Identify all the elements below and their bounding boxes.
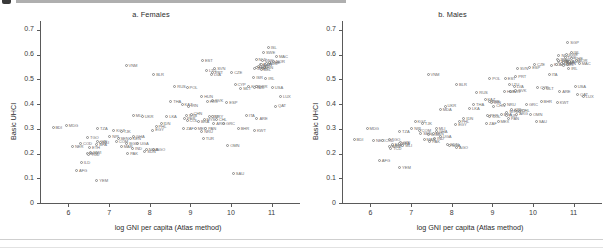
scatter-point <box>423 138 426 141</box>
scatter-point <box>255 66 258 69</box>
scatter-point <box>488 77 491 80</box>
scatter-point <box>165 115 168 118</box>
scatter-point <box>203 118 206 121</box>
scatter-point-label: AUS <box>269 61 277 66</box>
scatter-point <box>232 172 235 175</box>
scatter-point <box>439 108 442 111</box>
scatter-point-label: ITA <box>249 113 255 118</box>
y-tick <box>37 203 40 204</box>
y-tick <box>37 55 40 56</box>
scatter-point-label: CHN <box>194 111 203 116</box>
scatter-point <box>576 93 579 96</box>
x-tick-label: 11 <box>563 209 585 216</box>
scatter-point-label: SWE <box>266 50 275 55</box>
scatter-point-label: AFG <box>79 168 87 173</box>
scatter-point-label: IRL <box>268 76 274 81</box>
scatter-point-label: SVN <box>520 66 528 71</box>
y-tick-label: 0.6 <box>314 50 336 57</box>
x-tick-label: 7 <box>400 209 422 216</box>
scatter-point-label: OMN <box>533 112 542 117</box>
scatter-point-label: IDN <box>466 116 473 121</box>
scatter-point-label: TCD <box>91 152 99 157</box>
scatter-point-label: ISL <box>574 50 580 55</box>
scatter-point <box>540 100 543 103</box>
scatter-point-label: BHR <box>544 99 553 104</box>
scatter-point-label: SRB <box>491 99 499 104</box>
scatter-point <box>353 138 356 141</box>
scatter-point-label: UGA <box>443 134 452 139</box>
scatter-point <box>205 69 208 72</box>
scatter-point <box>508 83 511 86</box>
scatter-point <box>226 144 229 147</box>
scatter-point-label: CAN <box>566 60 575 65</box>
scatter-point-label: PER <box>490 113 498 118</box>
scatter-point-label: ZAF <box>186 126 194 131</box>
scatter-point-label: ARG <box>216 121 225 126</box>
header-text-remnant <box>16 0 346 3</box>
scatter-point-label: SAU <box>539 119 547 124</box>
cropped-header-strip <box>0 0 603 7</box>
scatter-point-label: QAT <box>278 103 286 108</box>
x-tick-label: 10 <box>220 209 242 216</box>
panel-males: b. Males 0.70.60.50.40.30.20.1067891011l… <box>302 7 603 232</box>
y-tick <box>339 178 342 179</box>
x-tick <box>533 204 534 207</box>
scatter-point <box>488 100 491 103</box>
scatter-point-label: MYS <box>207 117 216 122</box>
scatter-point <box>274 105 277 108</box>
scatter-point <box>378 159 381 162</box>
scatter-point-label: LUX <box>283 94 291 99</box>
x-tick-label: 10 <box>522 209 544 216</box>
scatter-point <box>112 129 115 132</box>
scatter-point-label: MLI <box>439 126 446 131</box>
scatter-point <box>234 83 237 86</box>
scatter-point-label: USA <box>578 84 586 89</box>
scatter-point <box>574 85 577 88</box>
plot-area-females: 0.70.60.50.40.30.20.1067891011log GNI pe… <box>0 7 302 232</box>
scatter-point-label: TZA <box>100 126 108 131</box>
scatter-point <box>200 95 203 98</box>
scatter-point <box>194 127 197 130</box>
scatter-point <box>468 107 471 110</box>
scatter-point <box>279 95 282 98</box>
scatter-point <box>410 127 413 130</box>
scatter-point <box>245 114 248 117</box>
y-tick-label: 0.5 <box>12 75 34 82</box>
y-tick <box>339 129 342 130</box>
scatter-point <box>260 63 263 66</box>
scatter-point <box>95 179 98 182</box>
scatter-point <box>484 98 487 101</box>
scatter-point <box>262 51 265 54</box>
scatter-point-label: SGP <box>570 40 579 45</box>
scatter-point-label: BLR <box>459 82 467 87</box>
scatter-point <box>535 120 538 123</box>
scatter-point <box>398 166 401 169</box>
scatter-point-label: NRU <box>507 102 516 107</box>
scatter-point-label: ITA <box>552 72 558 77</box>
scatter-point-label: VNM <box>129 63 138 68</box>
scatter-point-label: ISL <box>271 45 277 50</box>
y-tick-label: 0.7 <box>314 25 336 32</box>
scatter-point <box>556 101 559 104</box>
scatter-point <box>65 124 68 127</box>
scatter-point <box>132 114 135 117</box>
scatter-point <box>210 73 213 76</box>
scatter-point <box>255 117 258 120</box>
scatter-point-label: ILD <box>84 160 90 165</box>
y-tick-label: 0.1 <box>12 174 34 181</box>
scatter-point-label: QAT <box>580 92 588 97</box>
scatter-point <box>255 85 258 88</box>
scatter-point <box>206 100 209 103</box>
scatter-point-label: IRL <box>571 66 577 71</box>
scatter-point-label: LTU <box>512 82 519 87</box>
y-tick-label: 0 <box>12 199 34 206</box>
scatter-point <box>372 139 375 142</box>
scatter-point <box>202 137 205 140</box>
scatter-point-label: BDI <box>55 125 62 130</box>
scatter-point-label: HRV <box>210 99 218 104</box>
scatter-point <box>421 122 424 125</box>
scatter-point <box>75 169 78 172</box>
scatter-point-label: TZA <box>402 129 410 134</box>
scatter-point <box>173 85 176 88</box>
scatter-point <box>565 53 568 56</box>
